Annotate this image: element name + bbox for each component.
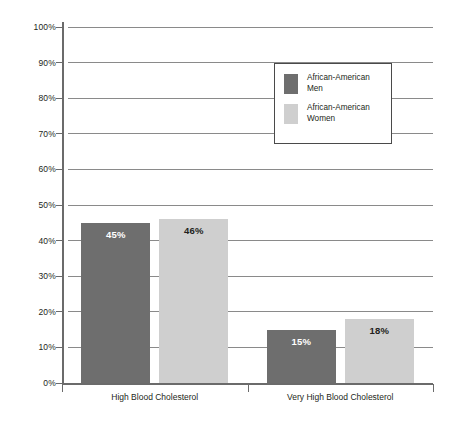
bar-chart: 0%10%20%30%40%50%60%70%80%90%100% 45%46%… [0,0,453,423]
bar: 45% [81,223,150,383]
bar-value-label: 46% [159,225,228,236]
y-axis-tick-label: 80% [38,93,56,103]
y-axis-tick-label: 50% [38,200,56,210]
bar-value-label: 18% [345,325,414,336]
legend-swatch-icon-men [284,74,298,94]
y-axis-tick-label: 10% [38,342,56,352]
legend-item-women: African-American Women [284,103,391,124]
x-axis-separator-tick [248,384,249,392]
y-axis-tick-label: 100% [33,22,56,32]
chart-legend: African-American Men African-American Wo… [274,63,392,144]
x-axis-category-label: Very High Blood Cholesterol [287,392,393,402]
bar: 15% [267,330,336,383]
y-axis-tick-label: 70% [38,129,56,139]
x-axis-separator-tick [433,384,434,392]
y-axis-tick-label: 20% [38,307,56,317]
bar-value-label: 45% [81,229,150,240]
y-axis-tick-label: 90% [38,58,56,68]
x-axis-category-label: High Blood Cholesterol [111,392,198,402]
bar: 18% [345,319,414,383]
bar-value-label: 15% [267,336,336,347]
legend-label-men: African-American Men [307,73,370,94]
y-axis-tick-label: 60% [38,164,56,174]
y-axis-tick-label: 40% [38,236,56,246]
bar: 46% [159,219,228,383]
y-axis-tick-label: 0% [43,378,56,388]
legend-label-women: African-American Women [307,103,370,124]
legend-item-men: African-American Men [284,73,391,94]
x-axis-separator-tick [62,384,63,392]
y-axis-tick-label: 30% [38,271,56,281]
legend-swatch-icon-women [284,104,298,124]
